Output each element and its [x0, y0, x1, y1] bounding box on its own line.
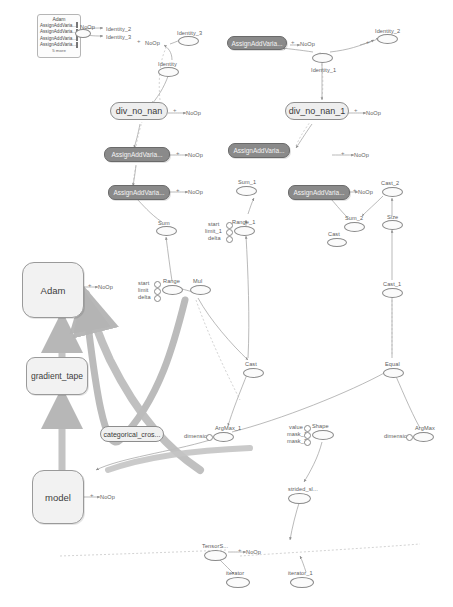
op-node-range-1[interactable]	[234, 226, 255, 236]
op-label-identity-1: Identity_1	[311, 67, 336, 73]
noop-label: NoOp	[246, 549, 261, 555]
input-stub-dimension[interactable]	[406, 434, 413, 441]
op-label-iterator: iterator	[226, 570, 244, 576]
collapsed-group-row[interactable]: AssignAddVaria...	[38, 35, 80, 42]
op-node-div-no-nan[interactable]: div_no_nan	[110, 102, 168, 120]
op-label-identity-2: Identity_2	[106, 26, 131, 32]
op-label-sum-2: Sum_2	[345, 215, 363, 221]
op-label-sum-1: Sum_1	[238, 179, 256, 185]
expand-icon[interactable]: +	[90, 492, 94, 498]
op-node-assignaddvariable[interactable]: AssignAddVaria...	[108, 185, 170, 200]
op-node-size[interactable]	[382, 220, 403, 230]
expand-icon[interactable]: +	[354, 107, 358, 113]
op-label-identity-3: Identity_3	[106, 34, 131, 40]
op-node-identity-1[interactable]	[312, 53, 333, 63]
namespace-node-categorical-crossentropy[interactable]: categorical_cros...	[100, 426, 164, 442]
collapsed-group-title: Adam	[38, 15, 80, 22]
noop-label: NoOp	[98, 284, 113, 290]
input-stub-limit[interactable]	[154, 288, 161, 295]
op-node-range[interactable]	[162, 285, 183, 295]
noop-label: NoOp	[100, 494, 115, 500]
op-node-div-no-nan-1[interactable]: div_no_nan_1	[285, 102, 349, 120]
op-node-assignaddvariable[interactable]: AssignAddVaria...	[227, 36, 287, 50]
namespace-node-model[interactable]: model	[32, 470, 84, 524]
expand-icon[interactable]: +	[291, 39, 295, 45]
input-label-delta: delta	[208, 235, 221, 241]
op-label-strided-slice: Shape	[312, 423, 329, 429]
op-label-assignaddvariable: AssignAddVaria...	[231, 40, 282, 47]
op-node-iterator[interactable]	[226, 577, 250, 588]
collapsed-group-row[interactable]: AssignAddVaria...	[38, 29, 80, 36]
op-node-identity[interactable]	[158, 67, 179, 77]
op-label-range-1: Range_1	[232, 219, 255, 225]
op-node-sum-1[interactable]	[236, 186, 257, 196]
noop-label: NoOp	[188, 189, 203, 195]
input-label-value: value	[289, 424, 303, 430]
expand-icon[interactable]: +	[176, 150, 180, 156]
input-label-start: start	[138, 280, 149, 286]
op-node-assignaddvariable[interactable]: AssignAddVaria...	[288, 185, 350, 200]
expand-icon[interactable]: +	[341, 150, 345, 156]
op-label-argmax: ArgMax	[415, 425, 435, 431]
op-node-cast-3[interactable]	[327, 238, 347, 247]
expand-icon[interactable]: +	[137, 38, 141, 44]
expand-icon[interactable]: +	[238, 547, 242, 553]
op-label-assignaddvariable: AssignAddVaria...	[233, 147, 284, 154]
namespace-node-adam[interactable]: Adam	[22, 262, 84, 318]
op-node-assignaddvariable[interactable]: AssignAddVaria...	[104, 147, 170, 162]
op-node-strided-slice[interactable]	[312, 430, 334, 440]
op-node-argmax-1[interactable]	[213, 432, 234, 442]
op-node-tensorslicedataset[interactable]	[204, 550, 227, 561]
op-node-iterator-1[interactable]	[290, 577, 314, 588]
input-label-delta: delta	[138, 294, 151, 300]
op-node-identity-2[interactable]	[377, 34, 398, 44]
input-stub-delta[interactable]	[226, 236, 233, 243]
noop-label: NoOp	[188, 152, 203, 158]
op-label-range: Range	[163, 278, 180, 284]
op-node-cast-2[interactable]	[382, 187, 403, 197]
noop-label: NoOp	[354, 152, 369, 158]
noop-label: NoOp	[300, 41, 315, 47]
op-label-argmax-1: ArgMax_1	[215, 425, 241, 431]
input-stub-dimension[interactable]	[206, 434, 213, 441]
collapsed-group-row-label: AssignAddVaria...	[40, 36, 76, 41]
op-node-cast[interactable]	[243, 368, 264, 378]
op-node-sum-2[interactable]	[344, 222, 365, 232]
expand-icon[interactable]: +	[176, 187, 180, 193]
op-node-argmax[interactable]	[413, 432, 434, 442]
expand-icon[interactable]: +	[366, 39, 370, 45]
noop-label: NoOp	[358, 189, 373, 195]
noop-label: NoOp	[145, 40, 160, 46]
op-node-shape[interactable]	[288, 493, 311, 504]
graph-canvas[interactable]: Adam AssignAddVaria... AssignAddVaria...…	[0, 0, 453, 607]
op-node-assignaddvariable[interactable]: AssignAddVaria...	[228, 143, 290, 158]
collapsed-group-row-label: AssignAddVaria...	[40, 23, 76, 28]
expand-icon[interactable]: +	[173, 107, 177, 113]
collapsed-group-more[interactable]: 5 more	[38, 48, 80, 53]
op-node-equal[interactable]	[383, 368, 404, 378]
op-label-tensorslicedataset: TensorS...	[202, 543, 228, 549]
op-label-div-no-nan: div_no_nan	[116, 106, 163, 116]
noop-label: NoOp	[186, 110, 201, 116]
expand-icon[interactable]: +	[88, 282, 92, 288]
noop-label: NoOp	[366, 110, 381, 116]
input-stub-start[interactable]	[226, 222, 233, 229]
input-label-start: start	[208, 221, 219, 227]
collapsed-group-row[interactable]: AssignAddVaria...	[38, 22, 80, 29]
op-node-noop[interactable]	[75, 29, 91, 38]
expand-icon[interactable]: +	[353, 187, 357, 193]
input-stub-delta[interactable]	[154, 295, 161, 302]
op-label-cast-2: Cast_2	[381, 180, 399, 186]
op-node-identity-3[interactable]	[178, 36, 199, 46]
collapsed-group-adam[interactable]: Adam AssignAddVaria... AssignAddVaria...…	[37, 14, 81, 58]
namespace-node-gradient-tape[interactable]: gradient_tape	[26, 357, 88, 395]
input-stub-mask-2[interactable]	[304, 439, 311, 446]
op-label-mul: Mul	[193, 278, 202, 284]
op-node-cast-1[interactable]	[382, 288, 403, 298]
op-node-mul[interactable]	[190, 285, 211, 295]
op-node-sum[interactable]	[156, 226, 177, 236]
op-label-shape: strided_sl...	[288, 486, 318, 492]
input-stub-limit[interactable]	[226, 229, 233, 236]
op-label-iterator-1: iterator_1	[288, 570, 313, 576]
input-stub-start[interactable]	[154, 281, 161, 288]
